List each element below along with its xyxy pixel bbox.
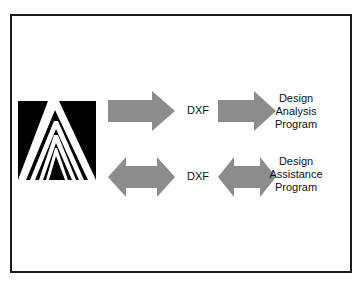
label-line: Program [256, 118, 336, 131]
format-label-dxf: DXF [178, 170, 218, 183]
double-arrow-icon [108, 157, 175, 197]
label-line: Assistance [256, 168, 336, 181]
a-logo-icon [18, 101, 96, 180]
label-line: Analysis [256, 105, 336, 118]
right-arrow-icon [108, 91, 175, 131]
design-assistance-program-label: Design Assistance Program [256, 155, 336, 194]
label-line: Design [256, 155, 336, 168]
design-analysis-program-label: Design Analysis Program [256, 92, 336, 131]
label-line: Program [256, 181, 336, 194]
format-label-dxf: DXF [178, 104, 218, 117]
label-line: Design [256, 92, 336, 105]
